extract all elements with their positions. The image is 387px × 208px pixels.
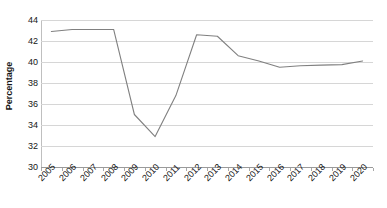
y-tick-label: 30 <box>16 163 38 172</box>
series-polyline <box>51 29 362 136</box>
y-tick-label: 40 <box>16 58 38 67</box>
y-axis-title-label: Percentage <box>4 62 14 111</box>
y-tick-label: 42 <box>16 37 38 46</box>
line-chart: Percentage 4442403836343230 200520062007… <box>0 0 387 208</box>
plot-area <box>41 20 373 167</box>
data-series-line <box>41 20 373 167</box>
y-tick-label: 38 <box>16 79 38 88</box>
y-tick-label: 44 <box>16 16 38 25</box>
y-tick-label: 32 <box>16 142 38 151</box>
y-tick-label: 34 <box>16 121 38 130</box>
y-axis-tick-labels: 4442403836343230 <box>16 0 38 208</box>
y-tick-label: 36 <box>16 100 38 109</box>
x-axis-tick-labels: 2005200620072008200920102011201220132014… <box>41 170 387 208</box>
